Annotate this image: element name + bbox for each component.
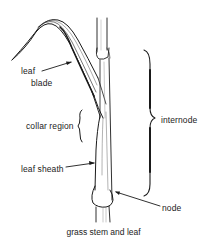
blade-label: blade: [31, 78, 52, 88]
leaf-blade: [12, 20, 98, 96]
main-stem: [100, 58, 112, 200]
leaf-label: leaf: [21, 66, 35, 76]
leaf-blade-arrowhead: [66, 62, 72, 66]
pointer-arrows: [42, 62, 160, 206]
grass-diagram: leaf blade collar region leaf sheath int…: [0, 0, 207, 247]
node-label: node: [162, 203, 181, 213]
node-arrowhead: [115, 192, 120, 196]
leaf-sheath: [92, 112, 113, 207]
lower-stem: [96, 206, 110, 222]
collar-region-label: collar region: [26, 121, 74, 131]
upper-stem: [96, 18, 110, 59]
internode-label: internode: [161, 115, 197, 125]
leaf-sheath-label: leaf sheath: [21, 164, 64, 174]
diagram-caption: grass stem and leaf: [0, 227, 207, 237]
leaf-sheath-arrowhead: [89, 161, 95, 165]
collar-brace: [78, 110, 82, 142]
collar: [92, 78, 106, 118]
node-arrow: [116, 192, 160, 206]
